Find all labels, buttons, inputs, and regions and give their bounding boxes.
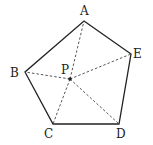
label-C: C <box>44 127 53 141</box>
segment-PA <box>70 21 84 79</box>
label-E: E <box>133 47 142 61</box>
diagram-canvas: A E D C B P <box>0 0 153 145</box>
segment-PC <box>53 79 70 124</box>
label-D: D <box>116 127 126 141</box>
dashed-segments <box>25 21 131 124</box>
label-B: B <box>10 66 19 80</box>
pentagon-outline <box>25 21 131 124</box>
label-P: P <box>61 63 69 77</box>
segment-PD <box>70 79 119 124</box>
label-A: A <box>79 4 89 18</box>
point-P-dot <box>68 77 72 81</box>
pentagon-diagram: A E D C B P <box>0 0 153 145</box>
segment-PE <box>70 54 131 79</box>
